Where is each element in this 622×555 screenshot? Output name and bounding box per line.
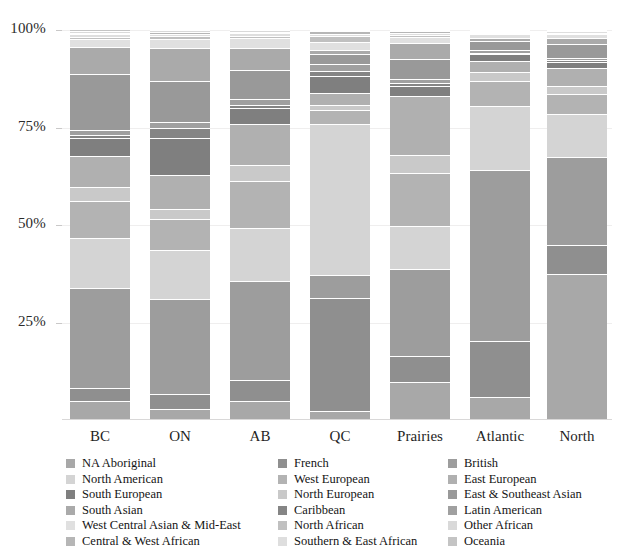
bar-segment[interactable] bbox=[70, 75, 130, 132]
bar-segment[interactable] bbox=[547, 115, 607, 157]
bar-segment[interactable] bbox=[547, 87, 607, 95]
bar-ab[interactable] bbox=[230, 30, 290, 420]
bar-segment[interactable] bbox=[547, 63, 607, 69]
legend-item[interactable]: North African bbox=[278, 518, 417, 534]
legend-item[interactable]: Latin American bbox=[448, 503, 582, 519]
bar-segment[interactable] bbox=[547, 32, 607, 33]
bar-segment[interactable] bbox=[390, 87, 450, 97]
bar-segment[interactable] bbox=[230, 282, 290, 380]
bar-segment[interactable] bbox=[547, 95, 607, 115]
bar-segment[interactable] bbox=[470, 107, 530, 171]
bar-segment[interactable] bbox=[470, 34, 530, 35]
bar-segment[interactable] bbox=[470, 73, 530, 82]
bar-atlantic[interactable] bbox=[470, 30, 530, 420]
bar-segment[interactable] bbox=[70, 32, 130, 34]
bar-segment[interactable] bbox=[230, 109, 290, 125]
legend-item[interactable]: North American bbox=[66, 472, 241, 488]
bar-segment[interactable] bbox=[390, 38, 450, 44]
bar-segment[interactable] bbox=[470, 33, 530, 34]
bar-segment[interactable] bbox=[230, 39, 290, 49]
bar-segment[interactable] bbox=[390, 30, 450, 31]
bar-segment[interactable] bbox=[150, 37, 210, 39]
bar-segment[interactable] bbox=[230, 229, 290, 282]
bar-segment[interactable] bbox=[230, 49, 290, 71]
bar-segment[interactable] bbox=[230, 30, 290, 31]
bar-segment[interactable] bbox=[310, 51, 370, 56]
bar-segment[interactable] bbox=[150, 139, 210, 176]
bar-segment[interactable] bbox=[70, 34, 130, 36]
bar-segment[interactable] bbox=[310, 32, 370, 35]
bar-segment[interactable] bbox=[470, 30, 530, 31]
bar-segment[interactable] bbox=[470, 42, 530, 51]
bar-segment[interactable] bbox=[70, 136, 130, 139]
bar-segment[interactable] bbox=[310, 276, 370, 299]
legend-item[interactable]: Caribbean bbox=[278, 503, 417, 519]
bar-segment[interactable] bbox=[310, 31, 370, 33]
bar-segment[interactable] bbox=[150, 49, 210, 82]
bar-segment[interactable] bbox=[547, 158, 607, 247]
bar-segment[interactable] bbox=[390, 270, 450, 357]
bar-segment[interactable] bbox=[470, 31, 530, 32]
bar-segment[interactable] bbox=[310, 65, 370, 72]
bar-segment[interactable] bbox=[390, 156, 450, 174]
bar-segment[interactable] bbox=[310, 55, 370, 64]
bar-segment[interactable] bbox=[470, 398, 530, 420]
bar-segment[interactable] bbox=[70, 389, 130, 403]
bar-segment[interactable] bbox=[470, 35, 530, 39]
bar-segment[interactable] bbox=[70, 157, 130, 188]
bar-segment[interactable] bbox=[150, 30, 210, 31]
bar-segment[interactable] bbox=[70, 188, 130, 202]
legend-item[interactable]: Central & West African bbox=[66, 534, 241, 550]
bar-segment[interactable] bbox=[150, 395, 210, 411]
bar-segment[interactable] bbox=[150, 251, 210, 300]
bar-segment[interactable] bbox=[150, 210, 210, 220]
bar-segment[interactable] bbox=[390, 97, 450, 156]
legend-item[interactable]: East & Southeast Asian bbox=[448, 487, 582, 503]
bar-segment[interactable] bbox=[470, 342, 530, 398]
legend-item[interactable]: Other African bbox=[448, 518, 582, 534]
bar-segment[interactable] bbox=[70, 38, 130, 40]
bar-segment[interactable] bbox=[150, 220, 210, 251]
bar-segment[interactable] bbox=[150, 129, 210, 139]
bar-segment[interactable] bbox=[70, 402, 130, 420]
bar-segment[interactable] bbox=[390, 31, 450, 32]
bar-segment[interactable] bbox=[230, 402, 290, 420]
bar-segment[interactable] bbox=[390, 80, 450, 84]
bar-segment[interactable] bbox=[390, 357, 450, 383]
legend-item[interactable]: Oceania bbox=[448, 534, 582, 550]
bar-segment[interactable] bbox=[470, 171, 530, 342]
bar-segment[interactable] bbox=[470, 51, 530, 53]
bar-segment[interactable] bbox=[230, 33, 290, 35]
bar-segment[interactable] bbox=[150, 33, 210, 35]
bar-bc[interactable] bbox=[70, 30, 130, 420]
bar-segment[interactable] bbox=[390, 44, 450, 60]
bar-segment[interactable] bbox=[470, 55, 530, 62]
bar-segment[interactable] bbox=[547, 59, 607, 61]
legend-item[interactable]: East European bbox=[448, 472, 582, 488]
bar-segment[interactable] bbox=[150, 123, 210, 129]
bar-segment[interactable] bbox=[390, 383, 450, 420]
bar-segment[interactable] bbox=[230, 166, 290, 182]
legend-item[interactable]: North European bbox=[278, 487, 417, 503]
bar-segment[interactable] bbox=[390, 174, 450, 227]
bar-segment[interactable] bbox=[70, 139, 130, 157]
bar-segment[interactable] bbox=[70, 131, 130, 136]
bar-segment[interactable] bbox=[390, 32, 450, 33]
bar-segment[interactable] bbox=[310, 72, 370, 78]
legend-item[interactable]: West Central Asian & Mid-East bbox=[66, 518, 241, 534]
bar-segment[interactable] bbox=[310, 30, 370, 31]
bar-segment[interactable] bbox=[230, 34, 290, 37]
bar-segment[interactable] bbox=[70, 48, 130, 75]
legend-item[interactable]: NA Aboriginal bbox=[66, 456, 241, 472]
bar-segment[interactable] bbox=[547, 69, 607, 87]
bar-segment[interactable] bbox=[310, 111, 370, 124]
bar-on[interactable] bbox=[150, 30, 210, 420]
bar-segment[interactable] bbox=[547, 275, 607, 420]
bar-segment[interactable] bbox=[70, 30, 130, 32]
bar-segment[interactable] bbox=[310, 106, 370, 112]
bar-segment[interactable] bbox=[547, 45, 607, 59]
bar-segment[interactable] bbox=[310, 125, 370, 276]
bar-segment[interactable] bbox=[470, 32, 530, 33]
bar-segment[interactable] bbox=[230, 37, 290, 39]
bar-segment[interactable] bbox=[390, 84, 450, 86]
